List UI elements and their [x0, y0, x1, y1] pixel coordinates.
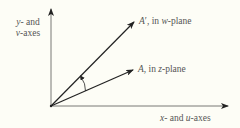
- vector-a: [51, 70, 133, 106]
- vertical-axis-label: y- andv-axes: [11, 17, 45, 39]
- horizontal-axis-label: x- and u-axes: [160, 113, 211, 124]
- vertical-axis-label-line-1: y- and: [11, 17, 45, 28]
- origin-point: [50, 105, 52, 107]
- vector-a-label: A, in z-plane: [138, 64, 186, 75]
- vector-a-prime-label: A′, in w-plane: [139, 16, 192, 27]
- vector-a-prime: [51, 22, 134, 106]
- rotation-arc-icon: [81, 76, 86, 91]
- vertical-axis-label-line-2: v-axes: [11, 28, 45, 39]
